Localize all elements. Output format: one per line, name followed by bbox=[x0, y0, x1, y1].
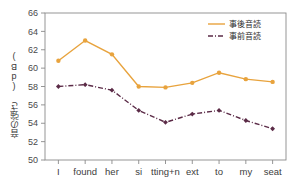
x-tick-label: her bbox=[105, 166, 119, 177]
data-point bbox=[243, 118, 248, 123]
data-point bbox=[163, 85, 167, 89]
y-tick-label: 56 bbox=[28, 100, 38, 110]
legend-label-1: 事前音読 bbox=[229, 31, 261, 41]
x-tick-label: found bbox=[73, 166, 97, 177]
y-tick-label: 62 bbox=[28, 45, 38, 55]
data-point bbox=[137, 84, 141, 88]
data-point bbox=[217, 71, 221, 75]
x-tick-label: to bbox=[215, 166, 223, 177]
chart-legend: 事後音読事前音読 bbox=[208, 19, 261, 41]
data-point bbox=[56, 59, 60, 63]
y-tick-label: 50 bbox=[28, 155, 38, 165]
y-tick-label: 58 bbox=[28, 82, 38, 92]
y-tick-label: 60 bbox=[28, 63, 38, 73]
series-line-0 bbox=[58, 41, 272, 88]
data-point bbox=[190, 112, 195, 117]
y-tick-label: 52 bbox=[28, 137, 38, 147]
x-tick-label: seat bbox=[264, 166, 282, 177]
data-point bbox=[56, 84, 61, 89]
x-tick-label: tting+n bbox=[151, 166, 180, 177]
data-point bbox=[270, 80, 274, 84]
plot-area: 505254565860626466 Ifoundhersitting+next… bbox=[0, 0, 292, 190]
series-layer bbox=[56, 38, 275, 131]
x-axis-ticks bbox=[58, 160, 272, 164]
y-axis-ticks: 505254565860626466 bbox=[28, 8, 45, 165]
x-tick-label: ext bbox=[186, 166, 199, 177]
x-tick-label: si bbox=[135, 166, 142, 177]
y-tick-label: 64 bbox=[28, 27, 38, 37]
data-point bbox=[110, 88, 115, 93]
data-point bbox=[270, 126, 275, 131]
x-tick-label: my bbox=[239, 166, 252, 177]
data-point bbox=[83, 38, 87, 42]
y-tick-label: 54 bbox=[28, 118, 38, 128]
data-point bbox=[83, 82, 88, 87]
line-chart: 音の強さ (dB) 505254565860626466 Ifoundhersi… bbox=[0, 0, 292, 190]
data-point bbox=[110, 52, 114, 56]
x-axis-labels: Ifoundhersitting+nexttomyseat bbox=[57, 166, 282, 177]
data-point bbox=[244, 77, 248, 81]
data-point bbox=[190, 81, 194, 85]
y-tick-label: 66 bbox=[28, 8, 38, 18]
data-point bbox=[163, 120, 168, 125]
data-point bbox=[217, 108, 222, 113]
legend-label-0: 事後音読 bbox=[229, 19, 261, 29]
x-tick-label: I bbox=[57, 166, 60, 177]
data-point bbox=[136, 108, 141, 113]
